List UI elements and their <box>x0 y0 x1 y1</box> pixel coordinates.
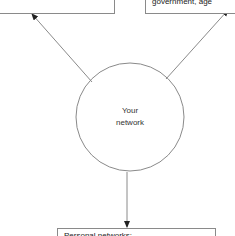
your-network-label: Your network <box>96 105 164 129</box>
arrow-to-top-right <box>166 10 228 79</box>
top-right-box-text: government, age <box>152 0 212 6</box>
arrow-to-top-left <box>32 14 92 82</box>
top-right-box: government, age <box>145 0 235 14</box>
bottom-box: Personal networks: <box>57 228 216 236</box>
your-network-line1: Your <box>96 105 164 117</box>
your-network-line2: network <box>96 117 164 129</box>
top-left-box <box>0 0 115 14</box>
bottom-box-text: Personal networks: <box>64 231 132 236</box>
